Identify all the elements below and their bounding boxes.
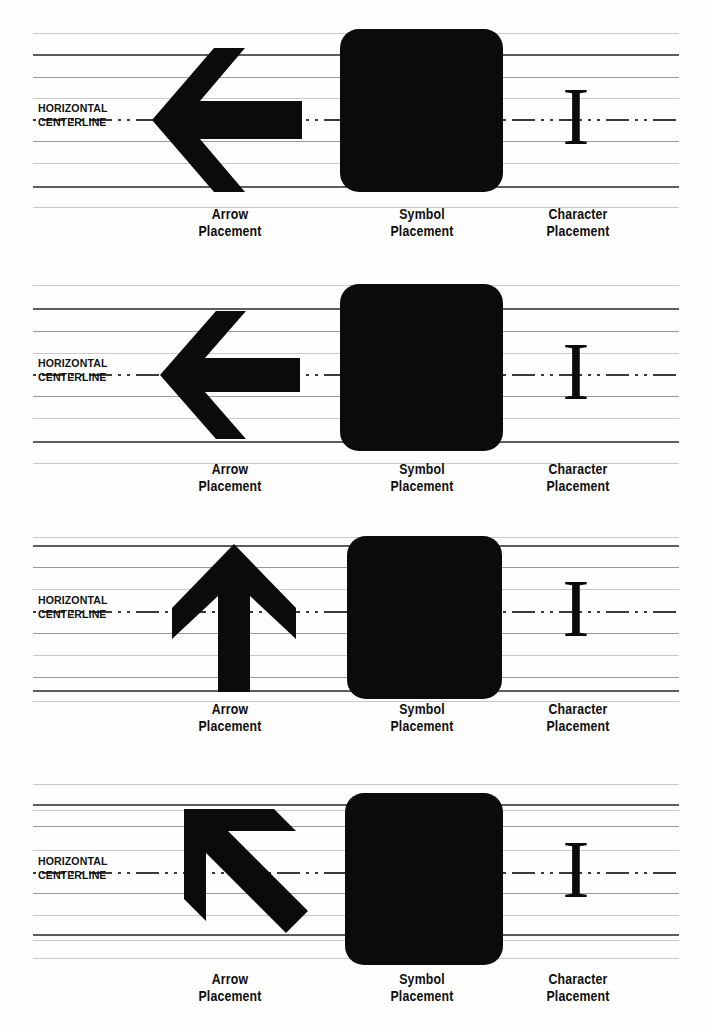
panel-4: HORIZONTAL CENTERLINE I Arrow Placement … <box>0 760 706 1032</box>
character-glyph: I <box>556 76 596 158</box>
caption-arrow-placement: Arrow Placement <box>164 206 296 240</box>
caption-arrow-line2: Placement <box>164 988 296 1005</box>
panel-2: HORIZONTAL CENTERLINE I Arrow Placement … <box>0 258 706 515</box>
caption-arrow-line1: Arrow <box>164 701 296 718</box>
caption-character-line1: Character <box>512 206 644 223</box>
caption-character-line1: Character <box>512 461 644 478</box>
caption-character-line2: Placement <box>512 988 644 1005</box>
caption-symbol-placement: Symbol Placement <box>356 701 488 735</box>
caption-symbol-line2: Placement <box>356 478 488 495</box>
rounded-square-symbol <box>340 29 503 192</box>
caption-arrow-line2: Placement <box>164 223 296 240</box>
caption-symbol-placement: Symbol Placement <box>356 206 488 240</box>
caption-symbol-line2: Placement <box>356 988 488 1005</box>
left-arrow-medium-icon <box>160 308 300 442</box>
diagonal-up-left-arrow-icon <box>182 807 308 933</box>
caption-symbol-line1: Symbol <box>356 461 488 478</box>
caption-symbol-line2: Placement <box>356 223 488 240</box>
caption-arrow-line1: Arrow <box>164 461 296 478</box>
rounded-square-symbol <box>340 284 503 451</box>
caption-symbol-placement: Symbol Placement <box>356 461 488 495</box>
panel-3: HORIZONTAL CENTERLINE I Arrow Placement … <box>0 515 706 760</box>
caption-character-placement: Character Placement <box>512 461 644 495</box>
caption-symbol-placement: Symbol Placement <box>356 971 488 1005</box>
panel-1: HORIZONTAL CENTERLINE I Arrow Placement … <box>0 0 706 258</box>
caption-symbol-line1: Symbol <box>356 971 488 988</box>
up-arrow-icon <box>172 544 296 692</box>
caption-character-placement: Character Placement <box>512 701 644 735</box>
character-glyph: I <box>556 829 596 911</box>
rounded-square-symbol <box>347 536 502 699</box>
diagram-sheet: HORIZONTAL CENTERLINE I Arrow Placement … <box>0 0 706 1032</box>
left-arrow-large-icon <box>152 44 302 196</box>
caption-symbol-line1: Symbol <box>356 206 488 223</box>
caption-character-placement: Character Placement <box>512 206 644 240</box>
caption-character-line2: Placement <box>512 223 644 240</box>
caption-arrow-line1: Arrow <box>164 206 296 223</box>
caption-symbol-line1: Symbol <box>356 701 488 718</box>
caption-character-line1: Character <box>512 701 644 718</box>
caption-arrow-placement: Arrow Placement <box>164 461 296 495</box>
caption-arrow-line2: Placement <box>164 478 296 495</box>
character-glyph: I <box>556 331 596 413</box>
caption-character-line1: Character <box>512 971 644 988</box>
caption-character-placement: Character Placement <box>512 971 644 1005</box>
caption-character-line2: Placement <box>512 718 644 735</box>
caption-arrow-placement: Arrow Placement <box>164 701 296 735</box>
caption-arrow-line2: Placement <box>164 718 296 735</box>
caption-arrow-placement: Arrow Placement <box>164 971 296 1005</box>
character-glyph: I <box>556 568 596 650</box>
caption-arrow-line1: Arrow <box>164 971 296 988</box>
rounded-square-symbol <box>345 793 503 965</box>
caption-character-line2: Placement <box>512 478 644 495</box>
caption-symbol-line2: Placement <box>356 718 488 735</box>
